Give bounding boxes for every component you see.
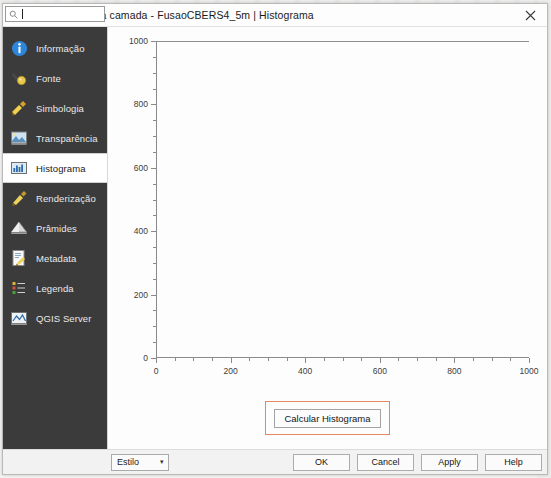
dialog-body: Informação Fonte <box>3 27 547 449</box>
y-tick-minor <box>153 89 156 90</box>
sidebar-item-label: QGIS Server <box>36 313 91 324</box>
sidebar-item-label: Histograma <box>36 163 86 174</box>
y-tick-minor <box>153 120 156 121</box>
transparency-icon <box>9 128 29 148</box>
sidebar-nav: Informação Fonte <box>3 27 107 333</box>
sidebar-item-label: Renderização <box>36 193 96 204</box>
calculate-histogram-button[interactable]: Calcular Histograma <box>274 409 380 428</box>
y-tick-minor <box>153 326 156 327</box>
y-tick <box>151 41 156 42</box>
x-tick-label: 200 <box>224 366 238 376</box>
histogram-icon <box>9 158 29 178</box>
sidebar-item-label: Simbologia <box>36 103 84 114</box>
y-tick <box>151 231 156 232</box>
info-icon <box>9 38 29 58</box>
x-tick-minor <box>212 358 213 361</box>
y-tick-minor <box>153 263 156 264</box>
y-tick-label: 800 <box>134 99 148 109</box>
x-tick-minor <box>268 358 269 361</box>
qgis-server-icon <box>9 308 29 328</box>
x-tick <box>380 358 381 363</box>
content-pane: 02004006008001000 02004006008001000 Calc… <box>107 27 547 449</box>
sidebar-item-legenda[interactable]: Legenda <box>3 273 107 303</box>
style-dropdown-label: Estilo <box>117 457 139 467</box>
style-dropdown[interactable]: Estilo ▾ <box>111 454 169 471</box>
y-tick-label: 600 <box>134 163 148 173</box>
x-tick-label: 0 <box>154 366 159 376</box>
y-tick-minor <box>153 200 156 201</box>
help-button[interactable]: Help <box>485 454 542 471</box>
x-tick-minor <box>361 358 362 361</box>
y-tick-label: 200 <box>134 290 148 300</box>
pyramids-icon <box>9 218 29 238</box>
chevron-down-icon: ▾ <box>160 458 164 466</box>
x-tick-minor <box>249 358 250 361</box>
ok-button[interactable]: OK <box>293 454 350 471</box>
y-tick-minor <box>153 342 156 343</box>
layer-properties-dialog: Propriedades da camada - FusaoCBERS4_5m … <box>2 3 548 475</box>
sidebar-item-metadata[interactable]: Metadata <box>3 243 107 273</box>
sidebar: Informação Fonte <box>3 27 107 449</box>
x-tick-label: 400 <box>298 366 312 376</box>
y-tick-label: 0 <box>143 353 148 363</box>
close-glyph <box>525 10 536 21</box>
x-tick-minor <box>343 358 344 361</box>
y-tick <box>151 295 156 296</box>
sidebar-item-label: Legenda <box>36 283 74 294</box>
symbology-icon <box>9 98 29 118</box>
metadata-icon <box>9 248 29 268</box>
sidebar-item-simbologia[interactable]: Simbologia <box>3 93 107 123</box>
sidebar-item-renderizacao[interactable]: Renderização <box>3 183 107 213</box>
x-tick-minor <box>417 358 418 361</box>
sidebar-item-pramides[interactable]: Prâmides <box>3 213 107 243</box>
y-tick <box>151 104 156 105</box>
plot-inner: 02004006008001000 02004006008001000 <box>156 41 529 358</box>
x-tick-minor <box>193 358 194 361</box>
y-tick-minor <box>153 279 156 280</box>
rendering-icon <box>9 188 29 208</box>
text-caret <box>22 9 23 19</box>
sidebar-item-informacao[interactable]: Informação <box>3 33 107 63</box>
sidebar-item-label: Fonte <box>36 73 61 84</box>
sidebar-item-label: Transparência <box>36 133 98 144</box>
sidebar-item-transparencia[interactable]: Transparência <box>3 123 107 153</box>
y-tick-minor <box>153 310 156 311</box>
y-tick-label: 1000 <box>129 36 148 46</box>
y-tick-minor <box>153 184 156 185</box>
x-tick-minor <box>175 358 176 361</box>
y-tick <box>151 168 156 169</box>
x-tick-minor <box>510 358 511 361</box>
calculate-zone: Calcular Histograma <box>108 385 547 449</box>
sidebar-item-qgis-server[interactable]: QGIS Server <box>3 303 107 333</box>
x-tick-minor <box>324 358 325 361</box>
cancel-button[interactable]: Cancel <box>357 454 414 471</box>
highlight-annotation: Calcular Histograma <box>265 401 389 435</box>
sidebar-item-fonte[interactable]: Fonte <box>3 63 107 93</box>
x-tick <box>305 358 306 363</box>
x-tick-minor <box>398 358 399 361</box>
sidebar-item-histograma[interactable]: Histograma <box>3 153 107 183</box>
close-icon[interactable] <box>513 4 547 26</box>
sidebar-item-label: Informação <box>36 43 85 54</box>
x-tick-minor <box>473 358 474 361</box>
y-tick-minor <box>153 73 156 74</box>
x-tick-label: 1000 <box>520 366 539 376</box>
x-tick-minor <box>492 358 493 361</box>
y-tick-minor <box>153 136 156 137</box>
sidebar-item-label: Metadata <box>36 253 76 264</box>
x-tick <box>454 358 455 363</box>
y-tick-minor <box>153 247 156 248</box>
y-tick-label: 400 <box>134 226 148 236</box>
sidebar-search-wrap <box>3 4 107 23</box>
source-icon <box>9 68 29 88</box>
x-tick <box>529 358 530 363</box>
x-tick-label: 800 <box>447 366 461 376</box>
y-axis-line <box>156 41 157 358</box>
search-input[interactable] <box>5 6 105 22</box>
legend-icon <box>9 278 29 298</box>
x-tick <box>231 358 232 363</box>
apply-button[interactable]: Apply <box>421 454 478 471</box>
dialog-footer: Estilo ▾ OK Cancel Apply Help <box>3 449 547 474</box>
histogram-data-line <box>156 41 529 42</box>
sidebar-item-label: Prâmides <box>36 223 77 234</box>
